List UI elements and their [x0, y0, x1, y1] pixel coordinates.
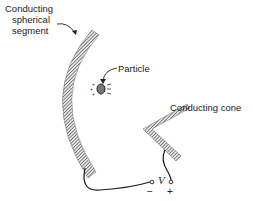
sphere-label-1: Conducting — [5, 3, 53, 14]
sphere-leader — [57, 24, 75, 33]
terminal-negative — [150, 180, 154, 184]
plus-sign: + — [167, 186, 173, 197]
spherical-segment — [62, 30, 99, 178]
particle — [97, 84, 105, 94]
minus-sign: − — [147, 186, 153, 197]
cone-label: Conducting cone — [170, 102, 241, 113]
voltage-label: V — [158, 175, 165, 186]
svg-text:+: + — [92, 91, 95, 97]
sphere-label-2: spherical — [12, 14, 50, 25]
particle-label: Particle — [118, 63, 150, 74]
sphere-label-3: segment — [12, 25, 48, 36]
terminal-positive — [169, 180, 173, 184]
